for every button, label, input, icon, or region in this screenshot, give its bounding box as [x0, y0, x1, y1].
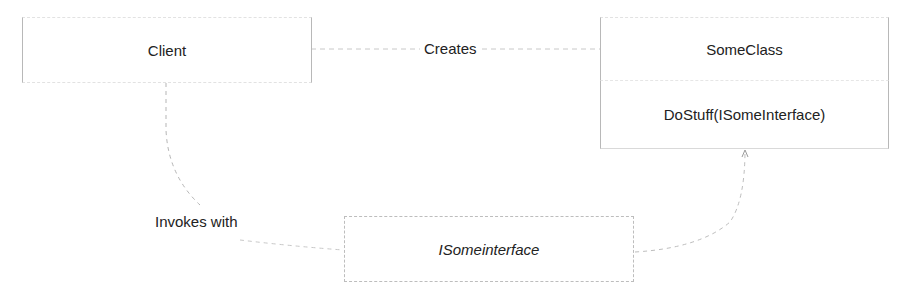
implements-connector — [635, 150, 745, 252]
someclass-method: DoStuff(ISomeInterface) — [664, 106, 825, 123]
invokes-with-connector-tail — [240, 240, 343, 250]
someclass-method-node[interactable]: DoStuff(ISomeInterface) — [600, 81, 889, 149]
interface-node[interactable]: ISomeinterface — [344, 216, 634, 282]
client-label: Client — [148, 42, 186, 59]
interface-label: ISomeinterface — [439, 241, 540, 258]
invokes-with-label: Invokes with — [151, 213, 242, 230]
invokes-with-connector — [166, 83, 200, 205]
someclass-title: SomeClass — [706, 41, 783, 58]
someclass-title-node[interactable]: SomeClass — [600, 17, 889, 81]
client-node[interactable]: Client — [22, 17, 312, 83]
creates-label: Creates — [420, 40, 481, 57]
